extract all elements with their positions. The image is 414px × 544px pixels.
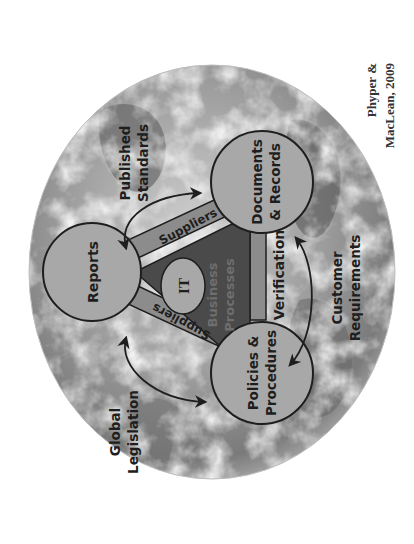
node-documents-label-line1: Documents [249,139,265,224]
global-legislation-label-line1: Global [107,408,123,456]
global-legislation-label-line2: Legislation [125,390,141,474]
node-reports-label: Reports [85,241,101,303]
published-standards-label-line1: Published [117,126,133,201]
node-policies-label-line2: Procedures [263,330,279,416]
edge-verification [250,228,266,320]
customer-requirements-label-line1: Customer [329,251,345,325]
business-processes-label-line2: Processes [222,258,237,332]
edge-verification-label: Verification [271,230,287,320]
it-label: IT [176,278,192,294]
diagram-canvas: Reports Documents & Records Policies & P… [0,0,414,544]
node-policies-procedures [211,322,313,424]
citation-line1: Phyper & [364,63,379,117]
node-policies-label-line1: Policies & [245,335,261,410]
business-processes-label-line1: Business [205,262,220,327]
node-documents-label-line2: & Records [267,143,283,221]
published-standards-label-line2: Standards [135,124,151,202]
customer-requirements-label-line2: Requirements [347,235,363,342]
citation-line2: MacLean, 2009 [382,63,397,149]
